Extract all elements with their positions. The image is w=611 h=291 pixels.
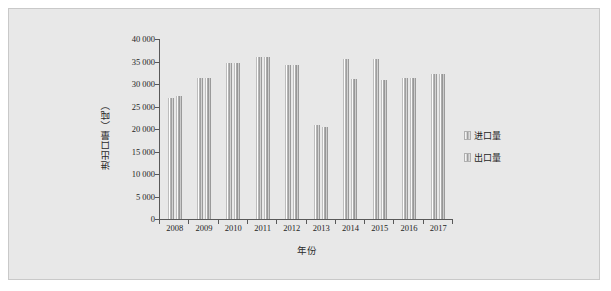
x-tick-label: 2008 — [166, 223, 183, 233]
y-tick-label: 40 000 — [109, 34, 155, 44]
y-tick-label: 30 000 — [109, 79, 155, 89]
bar-group — [248, 39, 277, 219]
bar-group — [394, 39, 423, 219]
legend-item-label: 进口量 — [474, 129, 501, 142]
bar — [373, 59, 379, 219]
bar — [431, 74, 437, 219]
chart-canvas: 进出口量（吨） 05 00010 00015 00020 00025 00030… — [9, 9, 599, 279]
y-tick-mark — [155, 62, 159, 63]
chart-figure: 进出口量（吨） 05 00010 00015 00020 00025 00030… — [8, 8, 600, 280]
x-tick-label: 2009 — [195, 223, 212, 233]
y-axis-tick-labels: 05 00010 00015 00020 00025 00030 00035 0… — [109, 9, 155, 279]
bar — [410, 78, 416, 219]
legend-item[interactable]: 进口量 — [464, 129, 574, 142]
bar — [285, 65, 291, 219]
bar-group — [336, 39, 365, 219]
bar — [439, 74, 445, 219]
bar — [351, 79, 357, 219]
bar — [402, 78, 408, 219]
bar-group — [219, 39, 248, 219]
bar — [314, 125, 320, 220]
y-tick-label: 0 — [109, 214, 155, 224]
bar-group — [189, 39, 218, 219]
y-tick-label: 15 000 — [109, 147, 155, 157]
chart-legend: 进口量出口量 — [464, 129, 574, 173]
x-tick-label: 2013 — [313, 223, 330, 233]
bar — [176, 96, 182, 219]
bar — [322, 127, 328, 219]
y-tick-label: 35 000 — [109, 57, 155, 67]
bar — [381, 80, 387, 219]
y-tick-mark — [155, 107, 159, 108]
x-axis-line — [159, 219, 453, 220]
bar — [168, 98, 174, 220]
bar — [256, 57, 262, 219]
bar — [343, 59, 349, 219]
bar — [197, 78, 203, 219]
bar-group — [424, 39, 453, 219]
bar-swatch-icon — [464, 131, 471, 140]
bar-group — [160, 39, 189, 219]
y-tick-mark — [155, 84, 159, 85]
x-axis-tick-labels: 2008200920102011201220132014201520162017 — [160, 223, 453, 239]
bar-swatch-icon — [464, 153, 471, 162]
bar — [226, 63, 232, 219]
x-tick-label: 2017 — [430, 223, 447, 233]
x-tick-label: 2016 — [401, 223, 418, 233]
x-axis-title: 年份 — [160, 243, 453, 257]
x-tick-label: 2015 — [371, 223, 388, 233]
bar — [234, 63, 240, 219]
y-tick-mark — [155, 174, 159, 175]
legend-item[interactable]: 出口量 — [464, 151, 574, 164]
x-tick-label: 2014 — [342, 223, 359, 233]
y-tick-label: 20 000 — [109, 124, 155, 134]
bar — [264, 57, 270, 219]
x-tick-label: 2011 — [254, 223, 271, 233]
y-tick-label: 5 000 — [109, 192, 155, 202]
legend-item-label: 出口量 — [474, 151, 501, 164]
x-tick-label: 2012 — [283, 223, 300, 233]
bar-group — [307, 39, 336, 219]
y-tick-label: 25 000 — [109, 102, 155, 112]
x-tick-label: 2010 — [225, 223, 242, 233]
bar-group — [277, 39, 306, 219]
bar-group — [365, 39, 394, 219]
y-tick-mark — [155, 152, 159, 153]
y-tick-mark — [155, 39, 159, 40]
y-tick-label: 10 000 — [109, 169, 155, 179]
y-tick-mark — [155, 197, 159, 198]
bar — [293, 65, 299, 219]
y-tick-mark — [155, 129, 159, 130]
bars-container — [160, 39, 453, 219]
bar — [205, 78, 211, 219]
